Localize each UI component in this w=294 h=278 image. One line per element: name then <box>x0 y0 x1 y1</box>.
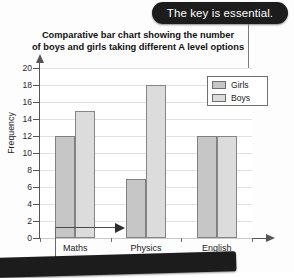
up-arrow-icon <box>36 54 44 63</box>
x-axis-label-physics: Physics <box>111 243 181 253</box>
x-axis-tick <box>40 238 41 242</box>
y-axis-tick-label: 4 <box>16 200 32 208</box>
y-axis-tick-label: 6 <box>16 183 32 191</box>
legend-label-boys: Boys <box>231 94 250 103</box>
bar-physics-girls <box>126 179 146 239</box>
right-arrow-icon <box>115 223 125 233</box>
grid-line <box>40 238 252 239</box>
y-axis-tick <box>33 204 39 205</box>
y-axis-tick <box>33 119 39 120</box>
y-axis-tick-label: 8 <box>16 166 32 174</box>
y-axis-tick <box>33 68 39 69</box>
legend-swatch-boys-icon <box>212 94 226 102</box>
chart-title-line-1: Comparative bar chart showing the number <box>22 30 254 42</box>
y-axis-tick <box>33 187 39 188</box>
origin-connector-horizontal <box>55 227 117 228</box>
y-axis-tick <box>33 221 39 222</box>
bar-maths-girls <box>55 136 75 238</box>
y-axis-tick-label: 2 <box>16 217 32 225</box>
y-axis-tick <box>33 136 39 137</box>
y-axis-tick <box>33 170 39 171</box>
y-axis-tick-label: 20 <box>16 64 32 72</box>
y-axis-tick <box>33 85 39 86</box>
y-axis-tick-label: 16 <box>16 98 32 106</box>
callout-bubble: The key is essential. <box>152 2 288 24</box>
x-axis-tick <box>111 238 112 242</box>
x-axis-tick <box>252 238 253 242</box>
y-axis-tick <box>33 153 39 154</box>
y-axis-tick-label: 10 <box>16 149 32 157</box>
legend-swatch-girls-icon <box>212 81 226 89</box>
callout-text: The key is essential. <box>167 7 273 19</box>
y-axis-tick-label: 12 <box>16 132 32 140</box>
bottom-callout-bar <box>0 251 236 278</box>
x-axis-tick <box>181 238 182 242</box>
bar-physics-boys <box>146 85 166 238</box>
y-axis-tick-label: 14 <box>16 115 32 123</box>
chart-title: Comparative bar chart showing the number… <box>22 30 254 53</box>
chart-title-line-2: of boys and girls taking different A lev… <box>22 42 254 54</box>
bar-maths-boys <box>75 111 95 239</box>
legend-label-girls: Girls <box>231 81 249 90</box>
y-axis-tick <box>33 102 39 103</box>
legend-item-girls: Girls <box>212 79 264 91</box>
bar-english-girls <box>197 136 217 238</box>
y-axis-tick-label: 0 <box>16 234 32 242</box>
right-arrow-icon <box>266 234 275 242</box>
grid-line <box>40 68 252 69</box>
legend-box: Girls Boys <box>207 76 268 106</box>
bar-english-boys <box>217 136 237 238</box>
legend-item-boys: Boys <box>212 92 264 104</box>
x-axis-label-maths: Maths <box>40 243 110 253</box>
y-axis-tick <box>33 238 39 239</box>
y-axis-tick-label: 18 <box>16 81 32 89</box>
